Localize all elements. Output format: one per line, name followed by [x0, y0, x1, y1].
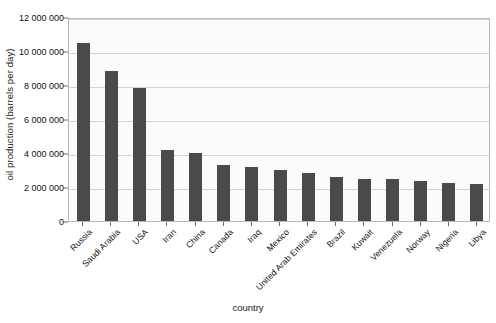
y-axis-tick-label: 6 000 000 — [14, 115, 64, 125]
y-axis-tick-label: 8 000 000 — [14, 81, 64, 91]
x-axis-tick-mark — [476, 222, 477, 226]
x-axis-category-label: Iraq — [245, 227, 263, 245]
bar — [77, 43, 90, 222]
y-axis-tick-label: 2 000 000 — [14, 183, 64, 193]
x-axis-tick-mark — [392, 222, 393, 226]
oil-production-bar-chart: oil production (barrels per day) 12 000 … — [0, 0, 496, 323]
x-axis-tick-mark — [110, 222, 111, 226]
y-axis-tick-label: 4 000 000 — [14, 149, 64, 159]
x-axis-tick-mark — [166, 222, 167, 226]
y-axis-tick-labels: 12 000 00010 000 0008 000 0006 000 0004 … — [14, 18, 64, 222]
x-axis-tick-mark — [223, 222, 224, 226]
x-axis-tick-mark — [279, 222, 280, 226]
y-axis-title-text: oil production (barrels per day) — [4, 48, 15, 180]
x-axis-tick-mark — [82, 222, 83, 226]
x-axis-category-label: Nigeria — [433, 227, 460, 254]
bars-layer — [69, 19, 489, 221]
bar — [414, 181, 427, 221]
x-axis-category-label: Kuwait — [350, 227, 376, 253]
bar — [302, 173, 315, 221]
bar — [442, 183, 455, 221]
bar — [386, 179, 399, 222]
plot-area — [68, 18, 490, 222]
y-axis-tick-label: 10 000 000 — [14, 47, 64, 57]
x-axis-category-label: Mexico — [265, 227, 292, 254]
bar — [330, 177, 343, 221]
bar — [470, 184, 483, 221]
bar — [245, 167, 258, 221]
y-axis-tick-label: 12 000 000 — [14, 13, 64, 23]
bar — [161, 150, 174, 221]
x-axis-category-label: Iran — [161, 227, 179, 245]
x-axis-tick-mark — [251, 222, 252, 226]
x-axis-tick-mark — [363, 222, 364, 226]
x-axis-tick-mark — [448, 222, 449, 226]
x-axis-category-label: Norway — [404, 227, 432, 255]
x-axis-tick-mark — [335, 222, 336, 226]
x-axis-category-label: USA — [131, 227, 151, 247]
bar — [274, 170, 287, 221]
x-axis-tick-mark — [420, 222, 421, 226]
x-axis-category-labels: RussiaSaudi ArabiaUSAIranChinaCanadaIraq… — [68, 227, 496, 297]
x-axis-category-label: Russia — [68, 227, 94, 253]
x-axis-category-label: Canada — [206, 227, 235, 256]
x-axis-category-label: China — [184, 227, 207, 250]
x-axis-title: country — [0, 302, 496, 313]
y-axis-tick-label: 0 — [14, 217, 64, 227]
bar — [105, 71, 118, 221]
x-axis-tick-mark — [195, 222, 196, 226]
bar — [189, 153, 202, 221]
x-axis-tick-mark — [307, 222, 308, 226]
x-axis-category-label: Libya — [466, 227, 488, 249]
bar — [217, 165, 230, 221]
bar — [133, 88, 146, 221]
x-axis-category-label: Brazil — [325, 227, 347, 249]
bar — [358, 179, 371, 222]
x-axis-tick-mark — [138, 222, 139, 226]
